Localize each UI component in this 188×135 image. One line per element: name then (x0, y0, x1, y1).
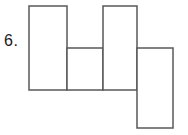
far-right-low-rect (137, 48, 173, 128)
worksheet-page: 6. (0, 0, 188, 135)
left-tall-rect (29, 6, 67, 90)
middle-short-rect (67, 48, 103, 90)
right-tall-rect (103, 6, 137, 90)
composite-rectangles-figure (0, 0, 188, 135)
